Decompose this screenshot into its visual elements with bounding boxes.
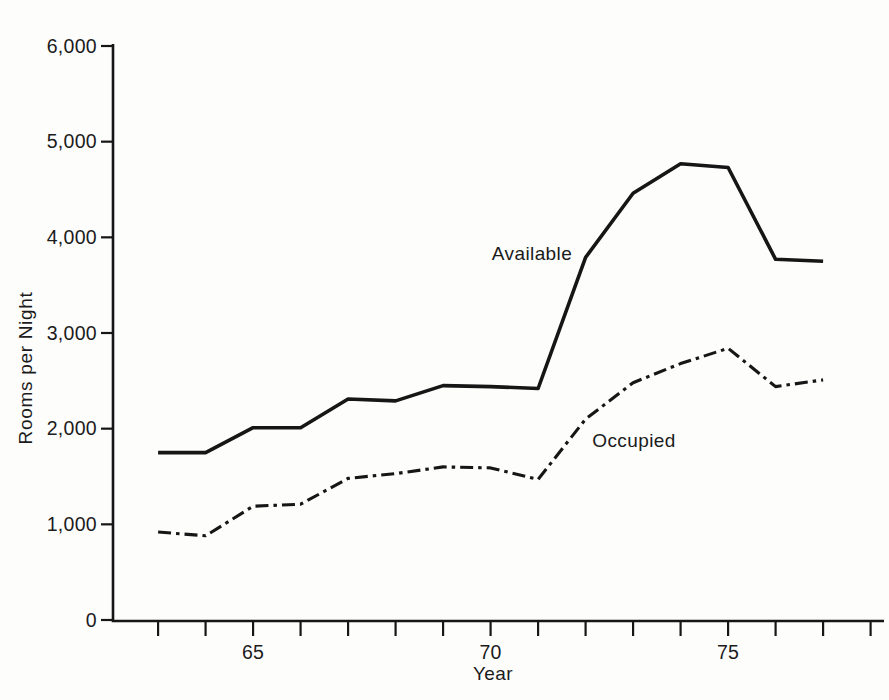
y-tick-label: 4,000 xyxy=(47,226,97,248)
x-tick-label: 75 xyxy=(717,641,739,663)
x-tick-label: 65 xyxy=(242,641,264,663)
y-tick-label: 5,000 xyxy=(47,130,97,152)
axes xyxy=(113,44,884,621)
series-line-occupied xyxy=(158,348,823,536)
series-line-available xyxy=(158,164,823,453)
y-tick-label: 0 xyxy=(86,609,97,631)
y-tick-label: 3,000 xyxy=(47,322,97,344)
chart-figure: 01,0002,0003,0004,0005,0006,000657075 Ro… xyxy=(0,0,889,700)
y-tick-label: 1,000 xyxy=(47,513,97,535)
y-tick-label: 6,000 xyxy=(47,35,97,57)
y-tick-label: 2,000 xyxy=(47,417,97,439)
series-label-available: Available xyxy=(492,243,572,265)
y-axis-title: Rooms per Night xyxy=(15,291,37,444)
x-axis-title: Year xyxy=(473,663,513,685)
series-label-occupied: Occupied xyxy=(592,430,675,452)
x-tick-label: 70 xyxy=(479,641,501,663)
chart-svg: 01,0002,0003,0004,0005,0006,000657075 xyxy=(0,0,889,700)
